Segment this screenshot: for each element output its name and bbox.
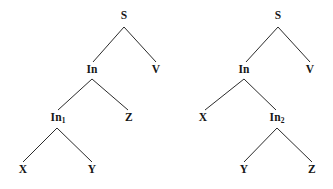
tree-node-label-text: In [86,63,97,75]
tree-node-label-text: S [121,9,128,21]
tree-edge-l-s-to-l-in [93,27,124,62]
tree-node-l-v: V [152,64,160,76]
edge-group [23,27,312,162]
tree-edge-r-in2-to-r-z [277,128,312,162]
tree-node-l-in1: In1 [51,112,66,124]
tree-node-r-s: S [275,10,282,22]
tree-node-label-text: Y [240,163,248,175]
tree-node-label-text: X [199,111,207,123]
tree-node-subscript: 1 [62,116,66,125]
tree-edge-l-in1-to-l-x [23,128,57,162]
tree-node-r-y: Y [240,164,248,176]
tree-node-label-text: V [306,63,314,75]
tree-node-label-text: In [238,63,249,75]
tree-node-label-text: In [51,111,62,123]
tree-edge-r-in-to-r-in2 [244,79,276,110]
tree-edge-r-in2-to-r-y [244,128,277,162]
tree-edge-l-in-to-l-z [92,79,128,110]
tree-node-r-in: In [238,64,249,76]
tree-node-r-x: X [199,112,207,124]
tree-edge-r-s-to-r-in [246,27,278,62]
tree-node-l-in: In [86,64,97,76]
tree-node-label-text: Y [88,163,96,175]
tree-edge-r-s-to-r-v [278,27,310,62]
tree-edge-r-in-to-r-x [205,79,244,110]
parse-tree-figure: SInVIn1ZXYSInVXIn2YZ [0,0,333,189]
tree-node-label-text: V [152,63,160,75]
tree-node-r-z: Z [308,164,316,176]
tree-node-l-x: X [19,164,27,176]
tree-node-l-z: Z [125,112,133,124]
tree-node-label-text: S [275,9,282,21]
tree-node-label-text: X [19,163,27,175]
tree-node-subscript: 2 [281,116,285,125]
tree-node-r-in2: In2 [270,112,285,124]
tree-edge-l-in-to-l-in1 [58,79,92,110]
tree-node-label-text: In [270,111,281,123]
tree-node-label-text: Z [125,111,133,123]
tree-edge-l-s-to-l-v [124,27,156,62]
tree-node-l-s: S [121,10,128,22]
tree-node-r-v: V [306,64,314,76]
tree-edges-canvas [0,0,333,189]
tree-node-label-text: Z [308,163,316,175]
tree-node-l-y: Y [88,164,96,176]
tree-edge-l-in1-to-l-y [57,128,92,162]
